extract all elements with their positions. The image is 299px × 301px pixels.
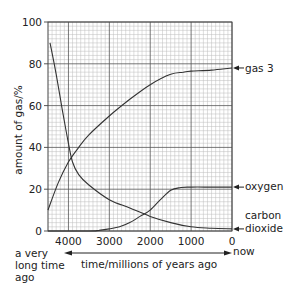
x-tick-label: 4000 <box>55 235 82 247</box>
oxygen-line <box>48 187 232 231</box>
co2-label-line2: dioxide <box>245 222 283 234</box>
y-tick-label: 100 <box>22 16 42 28</box>
y-tick-label: 80 <box>29 58 42 70</box>
data-series <box>48 43 232 231</box>
now-note: now <box>233 245 255 257</box>
oxygen-label: oxygen <box>245 180 283 192</box>
y-tick-label: 60 <box>29 100 42 112</box>
co2-label-line1: carbon <box>245 209 281 221</box>
x-tick-label: 2000 <box>137 235 164 247</box>
long-ago-note-line3: ago <box>15 271 35 283</box>
long-ago-note-line2: long time <box>15 259 65 271</box>
y-tick-label: 20 <box>29 183 42 195</box>
x-axis-label: time/millions of years ago <box>81 258 217 270</box>
gas3-label: gas 3 <box>245 62 274 74</box>
long-ago-note-line1: a very <box>15 247 48 259</box>
y-tick-labels: 020406080100 <box>22 16 48 237</box>
y-axis-label: amount of gas/% <box>12 85 24 174</box>
y-tick-label: 40 <box>29 141 42 153</box>
minor-grid <box>48 22 232 231</box>
x-tick-label: 3000 <box>96 235 123 247</box>
x-tick-label: 1000 <box>178 235 205 247</box>
y-tick-label: 0 <box>35 225 42 237</box>
x-tick-labels: 40003000200010000 <box>55 235 235 247</box>
